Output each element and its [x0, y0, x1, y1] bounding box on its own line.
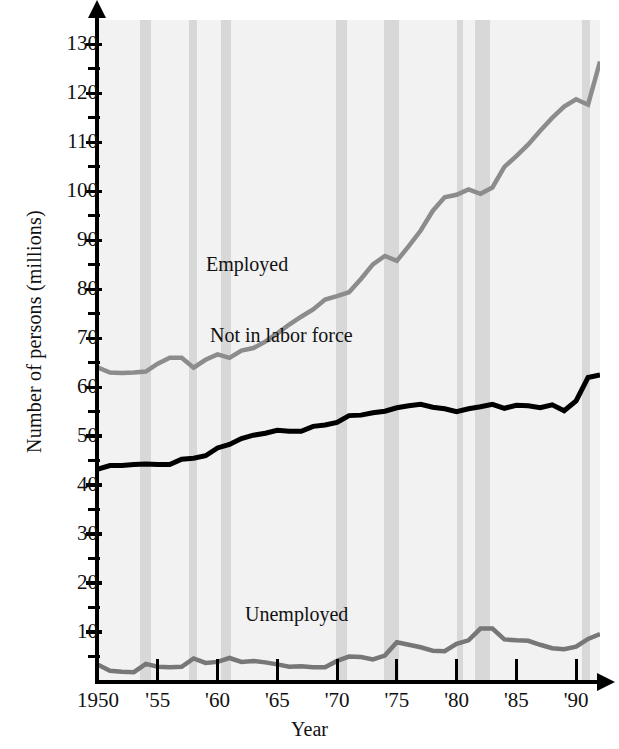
y-axis-minor-tick	[88, 263, 100, 266]
y-axis-minor-tick	[88, 116, 100, 119]
x-axis-tick	[276, 659, 279, 681]
x-axis-tick	[455, 659, 458, 681]
x-axis-tick	[156, 659, 159, 681]
x-axis-arrow-icon	[597, 673, 615, 691]
x-axis-tick-label: '65	[265, 688, 290, 713]
y-axis-minor-tick	[88, 557, 100, 560]
series-label-not-in-labor-force: Not in labor force	[210, 324, 353, 347]
x-axis-tick-label: '90	[564, 688, 589, 713]
y-axis-tick-label: 60	[22, 374, 98, 399]
series-lines-group	[98, 20, 600, 681]
y-axis-tick-label: 80	[22, 276, 98, 301]
y-axis-tick-label: 70	[22, 325, 98, 350]
x-axis-tick-label: '80	[444, 688, 469, 713]
x-axis-tick-label: '70	[325, 688, 350, 713]
y-axis-tick-label: 120	[22, 80, 98, 105]
y-axis-tick-label: 40	[22, 472, 98, 497]
x-axis-tick-label: '60	[205, 688, 230, 713]
y-axis-minor-tick	[88, 410, 100, 413]
x-axis-tick	[395, 659, 398, 681]
y-axis-minor-tick	[88, 655, 100, 658]
series-line-not-in-labor-force	[98, 375, 600, 469]
y-axis-ticks-group: 102030405060708090100110120130	[0, 0, 98, 749]
chart-figure: Number of persons (millions) 10203040506…	[0, 0, 619, 749]
x-axis-line	[95, 680, 598, 684]
y-axis-minor-tick	[88, 312, 100, 315]
x-axis-tick	[336, 659, 339, 681]
x-axis-tick-label: '55	[145, 688, 170, 713]
x-axis-tick	[575, 659, 578, 681]
y-axis-tick-label: 110	[22, 129, 98, 154]
y-axis-tick-label: 130	[22, 31, 98, 56]
plot-area	[98, 20, 600, 681]
x-axis-tick	[216, 659, 219, 681]
y-axis-tick-label: 100	[22, 178, 98, 203]
x-axis-tick-label: '85	[504, 688, 529, 713]
x-axis-title: Year	[0, 718, 619, 741]
y-axis-minor-tick	[88, 459, 100, 462]
series-label-unemployed: Unemployed	[245, 603, 348, 626]
y-axis-tick-label: 50	[22, 423, 98, 448]
y-axis-tick-label: 90	[22, 227, 98, 252]
y-axis-tick-label: 20	[22, 570, 98, 595]
x-axis-tick	[515, 659, 518, 681]
series-label-employed: Employed	[206, 253, 288, 276]
y-axis-minor-tick	[88, 606, 100, 609]
y-axis-minor-tick	[88, 508, 100, 511]
y-axis-minor-tick	[88, 67, 100, 70]
y-axis-minor-tick	[88, 165, 100, 168]
y-axis-tick-label: 10	[22, 619, 98, 644]
x-axis-tick-label: 1950	[77, 688, 119, 713]
y-axis-minor-tick	[88, 361, 100, 364]
x-axis-tick-label: '75	[384, 688, 409, 713]
y-axis-tick-label: 30	[22, 521, 98, 546]
series-line-unemployed	[98, 629, 600, 673]
y-axis-minor-tick	[88, 214, 100, 217]
